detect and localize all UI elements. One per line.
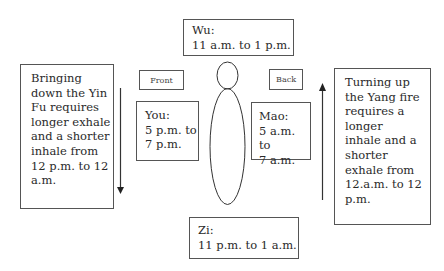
- you-time-box: You: 5 p.m. to 7 p.m.: [136, 101, 199, 161]
- right-description-box: Turning up the Yang fire requires a long…: [334, 68, 431, 225]
- front-label: Front: [140, 76, 183, 86]
- figure-body: [210, 89, 245, 205]
- you-time: 5 p.m. to 7 p.m.: [145, 123, 198, 152]
- back-label: Back: [270, 75, 302, 85]
- left-description-text: Bringing down the Yin Fu requires longer…: [31, 71, 113, 188]
- mao-label: Mao:: [259, 109, 310, 124]
- you-label: You:: [145, 108, 198, 123]
- figure-head: [217, 62, 238, 89]
- down-arrow: [117, 88, 124, 194]
- wu-label: Wu:: [192, 23, 293, 38]
- right-description-text: Turning up the Yang fire requires a long…: [345, 75, 430, 206]
- up-arrow: [319, 83, 326, 200]
- zi-label: Zi:: [198, 223, 298, 238]
- left-description-box: Bringing down the Yin Fu requires longer…: [20, 64, 114, 209]
- wu-time-box: Wu: 11 a.m. to 1 p.m.: [183, 19, 294, 56]
- zi-time-box: Zi: 11 p.m. to 1 a.m.: [189, 217, 299, 259]
- front-label-box: Front: [139, 70, 184, 90]
- back-label-box: Back: [269, 69, 303, 90]
- mao-time: 5 a.m. to 7 a.m.: [259, 124, 310, 168]
- wu-time: 11 a.m. to 1 p.m.: [192, 38, 293, 53]
- human-figure: [210, 62, 245, 205]
- mao-time-box: Mao: 5 a.m. to 7 a.m.: [251, 102, 311, 160]
- zi-time: 11 p.m. to 1 a.m.: [198, 238, 298, 253]
